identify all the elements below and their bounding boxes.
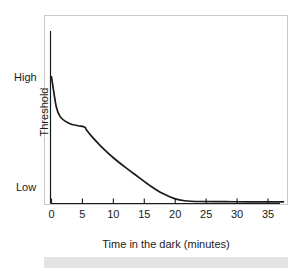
x-axis-title: Time in the dark (minutes) xyxy=(44,238,288,251)
x-tick-label: 35 xyxy=(253,208,283,220)
y-axis-title: Threshold xyxy=(38,72,50,152)
chart-figure: High Low Threshold 05101520253035 Time i… xyxy=(0,0,302,271)
dark-adaptation-curve xyxy=(52,77,284,202)
y-tick-label-high: High xyxy=(14,71,37,83)
x-tick-label: 20 xyxy=(160,208,190,220)
x-tick-label: 0 xyxy=(37,208,67,220)
x-tick-label: 15 xyxy=(129,208,159,220)
x-tick-label: 30 xyxy=(222,208,252,220)
x-tick-label: 10 xyxy=(98,208,128,220)
bottom-gray-band xyxy=(44,257,288,268)
y-tick-label-low: Low xyxy=(16,181,36,193)
x-tick-label: 5 xyxy=(67,208,97,220)
x-tick-label: 25 xyxy=(191,208,221,220)
